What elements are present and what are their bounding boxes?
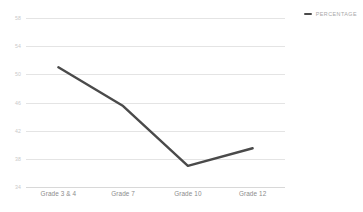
plot-area bbox=[26, 18, 285, 187]
line-chart: 58545046423834 Grade 3 & 4Grade 7Grade 1… bbox=[0, 0, 363, 212]
y-axis-tick-label: 58 bbox=[15, 15, 21, 21]
series-line-percentage bbox=[58, 67, 252, 166]
x-axis-tick-label: Grade 7 bbox=[111, 190, 135, 197]
gridline bbox=[26, 187, 285, 188]
y-axis-tick-label: 38 bbox=[15, 156, 21, 162]
x-axis-tick-label: Grade 12 bbox=[239, 190, 266, 197]
y-axis: 58545046423834 bbox=[0, 18, 24, 187]
y-axis-tick-label: 42 bbox=[15, 128, 21, 134]
x-axis: Grade 3 & 4Grade 7Grade 10Grade 12 bbox=[26, 190, 285, 206]
series-layer bbox=[26, 18, 285, 187]
y-axis-tick-label: 46 bbox=[15, 100, 21, 106]
legend: PERCENTAGE bbox=[304, 11, 357, 17]
x-axis-tick-label: Grade 10 bbox=[174, 190, 201, 197]
y-axis-tick-label: 50 bbox=[15, 71, 21, 77]
y-axis-tick-label: 54 bbox=[15, 43, 21, 49]
x-axis-tick-label: Grade 3 & 4 bbox=[41, 190, 77, 197]
legend-swatch-icon bbox=[304, 13, 312, 16]
legend-label: PERCENTAGE bbox=[316, 11, 357, 17]
y-axis-tick-label: 34 bbox=[15, 184, 21, 190]
